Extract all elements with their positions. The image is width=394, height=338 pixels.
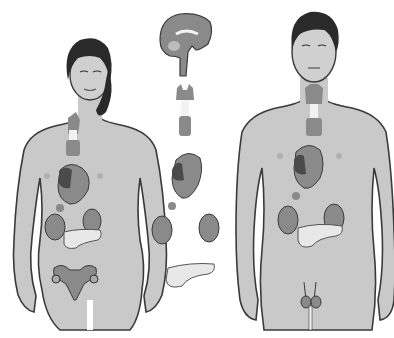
male-trachea [310, 104, 318, 120]
brain [160, 14, 212, 76]
iso-kidney-left [152, 216, 172, 244]
male-adrenal [292, 192, 300, 200]
illustration-canvas [0, 0, 394, 338]
female-leg-gap [87, 300, 93, 330]
endocrine-illustration [0, 0, 394, 338]
female-ovary-right [90, 275, 98, 283]
male-chest-left [277, 153, 283, 159]
male-thymus [306, 118, 322, 136]
pituitary [168, 41, 180, 51]
male-figure [236, 12, 394, 330]
female-kidney-left [45, 214, 65, 240]
iso-thymus [179, 116, 191, 136]
female-chest-left [44, 173, 50, 179]
male-urethra [309, 306, 312, 330]
male-chest-right [336, 153, 342, 159]
female-adrenal [56, 204, 64, 212]
iso-pancreas [166, 264, 214, 288]
iso-kidney-right [199, 214, 219, 242]
male-thyroid [305, 84, 323, 104]
iso-trachea [181, 100, 189, 116]
iso-thyroid [176, 84, 194, 100]
female-thymus [66, 140, 80, 156]
male-testis-right [311, 296, 321, 308]
female-chest-right [97, 173, 103, 179]
female-figure [14, 38, 167, 330]
male-kidney-left [278, 206, 298, 234]
female-ovary-left [52, 275, 60, 283]
iso-adrenal [168, 202, 176, 210]
